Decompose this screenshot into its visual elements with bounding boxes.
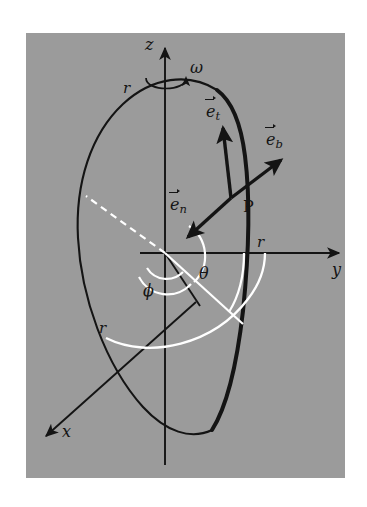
e-t-vector-label: et: [206, 104, 220, 122]
dashed-radius-line: [86, 196, 165, 253]
e-b-vector-label: eb: [266, 132, 283, 150]
phi-label: ϕ: [143, 283, 154, 299]
radius-marker-y: [229, 253, 244, 312]
point-p-label: P: [243, 199, 254, 215]
radius-label-lower-left: r: [99, 321, 106, 336]
e-n-vector-label: en: [170, 197, 187, 215]
e-n-vector-arrow: [188, 198, 231, 237]
e-t-sub: t: [215, 109, 220, 123]
theta-label: θ: [199, 266, 209, 282]
coordinate-diagram: [0, 0, 367, 507]
radius-label-top: r: [123, 81, 130, 96]
e-t-vector-arrow: [223, 128, 231, 198]
e-b-vector-arrow: [231, 160, 281, 198]
e-n-sub: n: [179, 202, 186, 216]
x-axis-label: x: [62, 424, 71, 440]
y-axis-label: y: [332, 262, 341, 278]
omega-label: ω: [190, 60, 203, 76]
x-axis: [46, 302, 196, 436]
z-axis-label: z: [145, 37, 153, 53]
radius-label-y: r: [257, 235, 264, 250]
e-t-base: e: [206, 102, 215, 121]
e-b-sub: b: [275, 137, 282, 151]
e-b-base: e: [266, 130, 275, 149]
e-n-base: e: [170, 195, 179, 214]
